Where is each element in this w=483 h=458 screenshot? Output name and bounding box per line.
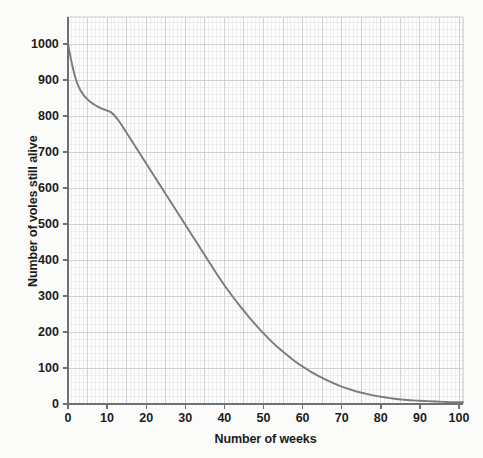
y-tick-label: 100 — [38, 361, 59, 375]
x-axis-title: Number of weeks — [215, 432, 317, 446]
y-tick-label: 0 — [52, 397, 59, 411]
survivorship-chart: Number of voles still alive Number of we… — [0, 0, 483, 458]
y-tick-label: 400 — [38, 253, 59, 267]
x-tick-label: 20 — [139, 411, 153, 425]
x-tick-label: 50 — [257, 411, 271, 425]
y-tick-label: 700 — [38, 145, 59, 159]
x-tick-label: 40 — [217, 411, 231, 425]
y-tick-label: 800 — [38, 109, 59, 123]
chart-canvas — [0, 0, 483, 458]
y-tick-label: 600 — [38, 181, 59, 195]
y-tick-label: 500 — [38, 217, 59, 231]
plot-background — [68, 17, 463, 404]
x-tick-label: 30 — [178, 411, 192, 425]
x-tick-label: 100 — [449, 411, 470, 425]
x-tick-label: 80 — [374, 411, 388, 425]
y-tick-label: 1000 — [31, 37, 59, 51]
y-tick-label: 900 — [38, 73, 59, 87]
y-tick-label: 300 — [38, 289, 59, 303]
x-tick-label: 90 — [413, 411, 427, 425]
x-tick-label: 60 — [296, 411, 310, 425]
x-tick-label: 0 — [65, 411, 72, 425]
y-tick-label: 200 — [38, 325, 59, 339]
x-tick-label: 10 — [100, 411, 114, 425]
x-tick-label: 70 — [335, 411, 349, 425]
